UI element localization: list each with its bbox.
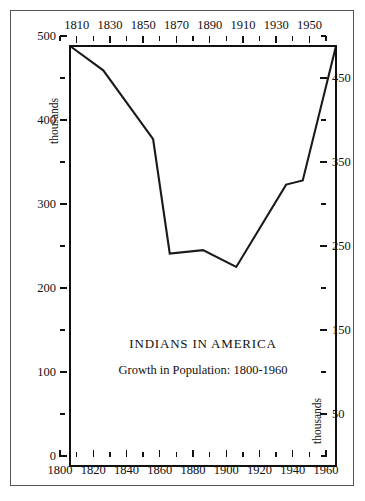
x-axis-tick bbox=[242, 452, 243, 457]
y-axis-right-title: thousands bbox=[311, 398, 323, 444]
x-axis-tick bbox=[93, 36, 94, 41]
x-axis-tick bbox=[76, 36, 77, 43]
x-axis-tick bbox=[292, 450, 293, 457]
y-axis-right-tick-label: 150 bbox=[332, 324, 365, 337]
y-axis-tick bbox=[321, 119, 326, 120]
y-axis-left-tick-label: 200 bbox=[20, 282, 56, 295]
x-axis-tick bbox=[209, 36, 210, 43]
x-axis-tick bbox=[209, 452, 210, 457]
y-axis-right-tick-label: 250 bbox=[332, 240, 365, 253]
x-axis-tick bbox=[109, 36, 110, 43]
y-axis-left-tick-label: 0 bbox=[20, 450, 56, 463]
x-axis-tick bbox=[242, 36, 243, 43]
chart-title: INDIANS IN AMERICA bbox=[70, 336, 336, 352]
x-axis-top-tick-label: 1950 bbox=[289, 19, 329, 32]
y-axis-tick bbox=[320, 245, 327, 246]
y-axis-tick bbox=[60, 119, 67, 120]
y-axis-right-tick-label: 50 bbox=[332, 408, 365, 421]
x-axis-bottom-tick-label: 1960 bbox=[306, 464, 346, 477]
x-axis-tick bbox=[159, 450, 160, 457]
y-axis-tick bbox=[321, 203, 326, 204]
x-axis-tick bbox=[159, 36, 160, 41]
y-axis-tick bbox=[60, 161, 65, 162]
y-axis-tick bbox=[321, 455, 326, 456]
x-axis-tick bbox=[176, 452, 177, 457]
y-axis-tick bbox=[60, 203, 67, 204]
y-axis-left-tick-label: 500 bbox=[20, 30, 56, 43]
x-axis-tick bbox=[93, 450, 94, 457]
x-axis-tick bbox=[275, 36, 276, 43]
x-axis-tick bbox=[259, 450, 260, 457]
x-axis-tick bbox=[142, 452, 143, 457]
y-axis-tick bbox=[60, 77, 65, 78]
y-axis-tick bbox=[320, 329, 327, 330]
y-axis-left-line bbox=[69, 45, 71, 467]
y-axis-left-tick-label: 300 bbox=[20, 198, 56, 211]
y-axis-tick bbox=[60, 329, 65, 330]
y-axis-tick bbox=[60, 455, 67, 456]
series-polyline bbox=[70, 46, 336, 267]
x-axis-tick bbox=[275, 452, 276, 457]
x-axis-tick bbox=[126, 450, 127, 457]
y-axis-right-tick-label: 450 bbox=[332, 72, 365, 85]
x-axis-tick bbox=[325, 36, 326, 41]
y-axis-left-tick-label: 100 bbox=[20, 366, 56, 379]
chart-title-block: INDIANS IN AMERICA Growth in Population:… bbox=[70, 336, 336, 378]
x-axis-tick bbox=[126, 36, 127, 41]
x-axis-tick bbox=[59, 36, 60, 41]
y-axis-tick bbox=[321, 35, 326, 36]
chart-frame: 1800182018401860188019001920194019601810… bbox=[10, 10, 354, 486]
y-axis-tick bbox=[60, 413, 65, 414]
y-axis-tick bbox=[321, 287, 326, 288]
y-axis-tick bbox=[60, 245, 65, 246]
x-axis-tick bbox=[142, 36, 143, 43]
x-axis-tick bbox=[109, 452, 110, 457]
x-axis-tick bbox=[226, 36, 227, 41]
x-axis-tick bbox=[259, 36, 260, 41]
y-axis-right-line bbox=[335, 45, 337, 467]
population-line-series bbox=[70, 46, 336, 466]
x-axis-tick bbox=[309, 452, 310, 457]
x-axis-tick bbox=[176, 36, 177, 43]
x-axis-tick bbox=[192, 36, 193, 41]
x-axis-tick bbox=[192, 450, 193, 457]
x-axis-tick bbox=[292, 36, 293, 41]
y-axis-tick bbox=[320, 77, 327, 78]
y-axis-tick bbox=[60, 35, 67, 36]
x-axis-top-line bbox=[69, 45, 337, 47]
plot-area bbox=[70, 46, 336, 466]
chart-subtitle: Growth in Population: 1800-1960 bbox=[70, 363, 336, 378]
x-axis-tick bbox=[226, 450, 227, 457]
y-axis-tick bbox=[320, 161, 327, 162]
x-axis-tick bbox=[309, 36, 310, 43]
x-axis-tick bbox=[76, 452, 77, 457]
y-axis-left-title: thousands bbox=[48, 98, 60, 144]
y-axis-right-tick-label: 350 bbox=[332, 156, 365, 169]
y-axis-tick bbox=[60, 371, 67, 372]
y-axis-tick bbox=[60, 287, 67, 288]
